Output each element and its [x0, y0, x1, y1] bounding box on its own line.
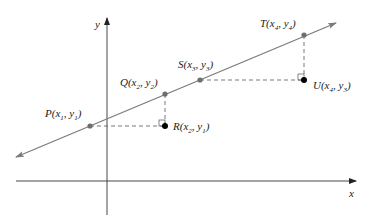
label-Q: Q(x2, y2): [120, 76, 158, 91]
label-R: R(x2, y1): [172, 120, 210, 135]
label-S: S(x3, y3): [178, 58, 213, 73]
x-axis-label-final: x: [348, 187, 354, 199]
point-R: [162, 123, 168, 129]
label-P: P(x1, y1): [44, 107, 82, 122]
label-U: U(x4, y3): [313, 79, 351, 94]
point-U: [301, 77, 307, 83]
y-axis-label: y: [94, 18, 100, 30]
point-S: [197, 77, 202, 82]
secant-line: [90, 23, 336, 126]
slope-diagram: y x x x x x P(x1, y1) Q(x2, y2) R(x2, y1…: [0, 0, 373, 218]
point-P: [87, 123, 92, 128]
point-T: [301, 32, 306, 37]
secant-line-left: [16, 126, 90, 157]
point-Q: [162, 91, 167, 96]
label-T: T(x4, y4): [260, 17, 296, 32]
